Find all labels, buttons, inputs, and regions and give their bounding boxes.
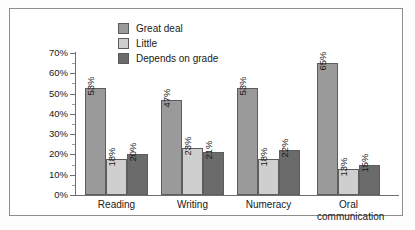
x-category-label: Oralcommunication — [317, 199, 380, 223]
bar-group-numeracy: 53%18%22%Numeracy — [237, 53, 300, 195]
y-tick-label-wrap-30: 30% — [32, 129, 68, 138]
plot-area: 53%18%20%Reading47%23%21%Writing53%18%22… — [76, 53, 398, 195]
y-tick-label-70: 70% — [40, 48, 68, 57]
bar-group-bars: 53%18%22% — [237, 53, 300, 195]
bar-group-reading: 53%18%20%Reading — [85, 53, 148, 195]
y-tick-label-20: 20% — [40, 149, 68, 158]
x-category-label-line: communication — [317, 211, 380, 223]
y-tick-30 — [70, 134, 75, 135]
x-category-label-line: Oral — [317, 199, 380, 211]
bar-group-writing: 47%23%21%Writing — [161, 53, 224, 195]
y-minor-tick-45 — [72, 104, 75, 105]
y-tick-label-40: 40% — [40, 109, 68, 118]
y-tick-label-wrap-10: 10% — [32, 170, 68, 179]
y-tick-label-60: 60% — [40, 68, 68, 77]
y-tick-label-30: 30% — [40, 129, 68, 138]
y-tick-label-wrap-0: 0% — [32, 190, 68, 199]
x-category-label: Reading — [85, 199, 148, 211]
y-tick-70 — [70, 53, 75, 54]
bar-value-label: 53% — [86, 76, 96, 95]
y-tick-0 — [70, 195, 75, 196]
chart-figure: Great deal Little Depends on grade 0%10%… — [0, 0, 415, 230]
bar-value-label: 18% — [259, 147, 269, 166]
bar-value-label: 21% — [204, 141, 214, 160]
y-tick-50 — [70, 94, 75, 95]
y-tick-label-10: 10% — [40, 170, 68, 179]
bar-value-label: 53% — [238, 76, 248, 95]
y-minor-tick-55 — [72, 83, 75, 84]
x-axis-line — [75, 195, 399, 196]
bar-great-deal-writing[interactable]: 47% — [161, 100, 182, 195]
bar-depends-on-grade-writing[interactable]: 21% — [203, 152, 224, 195]
legend-swatch-little — [118, 38, 129, 49]
legend-item-little[interactable]: Little — [118, 36, 268, 51]
bar-value-label: 15% — [360, 153, 370, 172]
y-tick-10 — [70, 175, 75, 176]
y-minor-tick-35 — [72, 124, 75, 125]
y-tick-label-50: 50% — [40, 89, 68, 98]
y-tick-label-wrap-40: 40% — [32, 109, 68, 118]
y-minor-tick-5 — [72, 185, 75, 186]
y-tick-label-0: 0% — [40, 190, 68, 199]
y-tick-60 — [70, 73, 75, 74]
bar-value-label: 13% — [339, 157, 349, 176]
bar-great-deal-numeracy[interactable]: 53% — [237, 88, 258, 196]
bar-group-bars: 53%18%20% — [85, 53, 148, 195]
bar-group-bars: 47%23%21% — [161, 53, 224, 195]
legend-label-little: Little — [136, 38, 157, 49]
bar-little-writing[interactable]: 23% — [182, 148, 203, 195]
y-minor-tick-25 — [72, 144, 75, 145]
legend-swatch-great-deal — [118, 23, 129, 34]
legend-item-great-deal[interactable]: Great deal — [118, 21, 268, 36]
bar-value-label: 65% — [318, 52, 328, 71]
x-category-label: Writing — [161, 199, 224, 211]
bar-group-oral-communication: 65%13%15%Oralcommunication — [317, 53, 380, 195]
bar-depends-on-grade-numeracy[interactable]: 22% — [279, 150, 300, 195]
y-tick-20 — [70, 154, 75, 155]
bar-value-label: 47% — [162, 88, 172, 107]
bar-value-label: 18% — [107, 147, 117, 166]
bar-great-deal-oral-communication[interactable]: 65% — [317, 63, 338, 195]
bar-little-numeracy[interactable]: 18% — [258, 159, 279, 196]
bar-little-reading[interactable]: 18% — [106, 159, 127, 196]
x-category-label-line: Numeracy — [237, 199, 300, 211]
y-tick-label-wrap-70: 70% — [32, 48, 68, 57]
chart-frame: Great deal Little Depends on grade 0%10%… — [9, 8, 403, 216]
y-minor-tick-15 — [72, 165, 75, 166]
y-tick-label-wrap-60: 60% — [32, 68, 68, 77]
bar-depends-on-grade-reading[interactable]: 20% — [127, 154, 148, 195]
y-minor-tick-65 — [72, 63, 75, 64]
y-tick-label-wrap-20: 20% — [32, 149, 68, 158]
x-category-label: Numeracy — [237, 199, 300, 211]
legend-label-great-deal: Great deal — [136, 23, 183, 34]
bar-great-deal-reading[interactable]: 53% — [85, 88, 106, 196]
y-tick-label-wrap-50: 50% — [32, 89, 68, 98]
bar-value-label: 20% — [128, 143, 138, 162]
bar-group-bars: 65%13%15% — [317, 53, 380, 195]
bar-little-oral-communication[interactable]: 13% — [338, 169, 359, 195]
bar-depends-on-grade-oral-communication[interactable]: 15% — [359, 165, 380, 195]
y-tick-40 — [70, 114, 75, 115]
x-category-label-line: Writing — [161, 199, 224, 211]
bar-value-label: 23% — [183, 137, 193, 156]
x-category-label-line: Reading — [85, 199, 148, 211]
bar-value-label: 22% — [280, 139, 290, 158]
